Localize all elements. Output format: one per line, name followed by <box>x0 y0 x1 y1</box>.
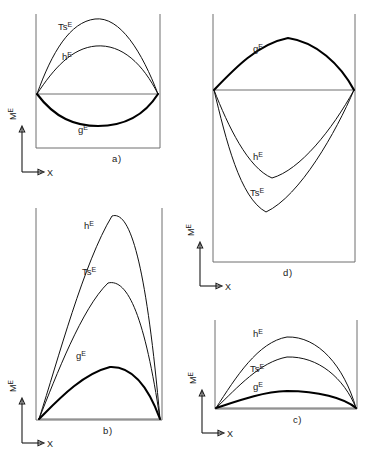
panel-d-curve-ge <box>214 38 354 90</box>
panel-b-axes: ME X <box>7 380 53 450</box>
figure-canvas: TsE hE gE a) ME X hE TsE gE b) M <box>0 0 374 453</box>
panel-d-curve-tse <box>214 90 354 212</box>
panel-b: hE TsE gE b) ME X <box>7 208 162 449</box>
panel-d: gE hE TsE d) ME X <box>185 14 355 292</box>
panel-a-label-ge: gE <box>78 124 88 136</box>
panel-c-curve-ge <box>216 391 356 408</box>
panel-c-label-ge: gE <box>253 381 263 393</box>
panel-a-tag: a) <box>112 153 122 164</box>
panel-b-curve-tse <box>39 283 160 419</box>
panel-a-axes: ME X <box>7 108 53 179</box>
panel-d-label-ge: gE <box>253 43 263 55</box>
panel-b-yaxis-label: ME <box>7 380 18 393</box>
panel-a-yaxis-label: ME <box>7 108 18 121</box>
panel-c-yaxis-label: ME <box>187 372 198 385</box>
panel-b-curve-he <box>39 216 160 419</box>
panel-c-xaxis-label: X <box>227 429 233 439</box>
panel-b-label-he: hE <box>84 220 94 232</box>
panel-a-curve-tse <box>37 19 158 94</box>
panel-b-xaxis-label: X <box>47 439 53 449</box>
panel-c-tag: c) <box>293 414 302 425</box>
panel-a-curve-ge <box>37 94 158 126</box>
panel-d-label-tse: TsE <box>250 187 265 199</box>
panel-a-label-he: hE <box>62 51 72 63</box>
panel-b-label-tse: TsE <box>82 266 97 278</box>
panel-a: TsE hE gE a) ME X <box>7 14 160 178</box>
panel-b-tag: b) <box>103 425 113 436</box>
panel-c-label-he: hE <box>253 328 263 340</box>
panel-d-xaxis-label: X <box>225 282 231 292</box>
panel-d-yaxis-label: ME <box>185 224 196 237</box>
panel-c: hE TsE gE c) ME X <box>187 320 357 439</box>
panel-a-label-tse: TsE <box>58 21 73 33</box>
panel-a-xaxis-label: X <box>47 168 53 178</box>
panel-b-label-ge: gE <box>76 350 86 362</box>
panel-d-tag: d) <box>283 267 293 278</box>
panel-c-label-tse: TsE <box>250 363 265 375</box>
panel-d-label-he: hE <box>253 151 263 163</box>
panel-d-axes: ME X <box>185 224 231 293</box>
